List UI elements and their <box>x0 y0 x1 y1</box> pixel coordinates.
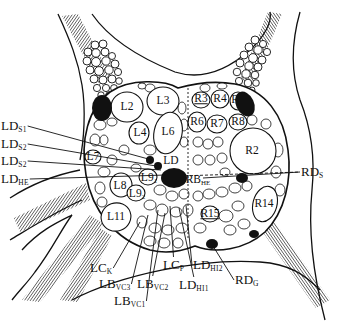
cell-label-l2: L2 <box>121 101 134 113</box>
callout-label-rd-g: RDG <box>235 273 259 288</box>
cell-label-r4: R4 <box>213 93 226 105</box>
callout-label-ld-hi2: LDHI2 <box>193 258 223 273</box>
cell-label-r14: R14 <box>254 198 273 210</box>
cell-label-rb-he: RBHE <box>186 174 211 187</box>
callout-label-lb-vc1: LBVC1 <box>114 294 145 309</box>
cell-label-r8: R8 <box>231 116 244 128</box>
callout-label-ld-he: LDHE <box>1 172 29 187</box>
callout-label-rd-s: RDS <box>301 165 323 180</box>
cell-label-l8: L8 <box>114 180 127 192</box>
ganglion-drawing <box>0 0 360 324</box>
callout-label-lc-k: LCK <box>90 261 112 276</box>
cell-label-l3: L3 <box>157 95 170 107</box>
cell-label-l7: L7 <box>87 151 100 163</box>
ganglion-diagram: L2L3L4L6L7L8L91L92L11LDR2R3R4R5R6R7R8R14… <box>0 0 360 324</box>
callout-label-lc-p: LCP <box>163 258 184 273</box>
callout-label-ld-s2b: LDS2 <box>1 154 27 169</box>
cell-label-l9-2: L92 <box>129 188 145 201</box>
cell-label-r2: R2 <box>245 145 258 157</box>
callout-label-lb-vc2: LBVC2 <box>137 277 168 292</box>
callout-label-ld-hi1: LDHI1 <box>179 278 209 293</box>
cell-label-l6: L6 <box>162 126 175 138</box>
callout-label-lb-vc3: LBVC3 <box>99 277 130 292</box>
cell-label-l9-1: L91 <box>141 172 157 185</box>
cell-label-l4: L4 <box>134 127 147 139</box>
cell-label-ld: LD <box>163 155 178 167</box>
cell-label-r15: R15 <box>200 208 219 220</box>
callout-label-ld-s2a: LDS2 <box>1 137 27 152</box>
cell-label-r3: R3 <box>194 93 207 105</box>
callout-label-ld-s1: LDS1 <box>1 119 27 134</box>
cell-label-r6: R6 <box>190 116 203 128</box>
cell-label-r5: R5 <box>231 94 244 106</box>
cell-label-l11: L11 <box>107 211 125 223</box>
cell-label-r7: R7 <box>210 118 223 130</box>
